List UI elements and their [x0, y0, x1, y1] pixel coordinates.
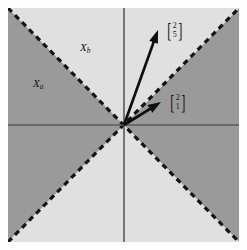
- column-vector-2-5-values: 2 5: [173, 22, 177, 39]
- plot-canvas: [0, 0, 247, 250]
- bracket-left-icon: [: [170, 94, 174, 111]
- region-label-xa: Xa: [33, 78, 43, 91]
- vector-component-bottom: 5: [173, 31, 177, 39]
- region-label-xb-base: X: [80, 41, 87, 53]
- column-vector-2-1-values: 2 1: [176, 94, 180, 111]
- bracket-left-icon: [: [167, 22, 171, 39]
- vector-component-bottom: 1: [176, 103, 180, 111]
- column-vector-2-5: [ 2 5 ]: [166, 22, 183, 39]
- bracket-right-icon: ]: [178, 22, 182, 39]
- column-vector-2-1: [ 2 1 ]: [169, 94, 186, 111]
- region-label-xa-sub: a: [40, 82, 44, 91]
- bracket-right-icon: ]: [181, 94, 185, 111]
- region-label-xb-sub: b: [87, 46, 91, 55]
- vector-diagram-figure: Xa Xb [ 2 5 ] [ 2 1 ]: [0, 0, 247, 250]
- region-label-xa-base: X: [33, 77, 40, 89]
- region-label-xb: Xb: [80, 42, 90, 55]
- vector-label-2-5: [ 2 5 ]: [166, 22, 183, 40]
- vector-label-2-1: [ 2 1 ]: [169, 94, 186, 112]
